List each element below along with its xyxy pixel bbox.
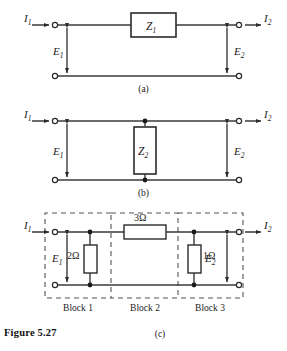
panel-c-terminal-bottom-right [236,282,241,287]
figure-number-label: Figure 5.27 [4,327,57,338]
panel-c-input-voltage-label: E1 [51,252,62,267]
panel-a-terminal-top-left [52,22,57,27]
panel-c-junction-1ohm-bottom [192,283,197,288]
panel-b-output-voltage-label: E2 [233,145,245,160]
panel-a-output-current-label: I2 [263,12,272,27]
panel-c-output-current-label: I2 [263,219,272,234]
panel-a-input-voltage-label: E1 [52,45,63,60]
panel-c-terminal-bottom-left [52,282,57,287]
panel-c-resistor-3ohm [124,225,166,239]
panel-b-junction-top [143,119,148,124]
panel-c-resistor-1ohm [188,245,201,273]
panel-b-terminal-top-right [236,118,241,123]
panel-c-3ohm-label: 3Ω [134,212,146,223]
panel-c-2ohm-label: 2Ω [67,250,79,261]
block-2-label: Block 2 [112,303,178,313]
panel-a-terminal-top-right [236,22,241,27]
panel-b-junction-bottom [143,178,148,183]
panel-b-output-current-label: I2 [263,108,272,123]
panel-a-terminal-bottom-left [52,73,57,78]
block-3-label: Block 3 [178,303,242,313]
panel-b-terminal-bottom-right [236,177,241,182]
figure-5-27: I1 I2 E1 E2 Z1 I1 I2 E1 [0,0,287,351]
panel-b-input-current-label: I1 [23,108,31,123]
panel-a-input-current-label: I1 [23,12,31,27]
panel-c-caption: (c) [60,329,260,339]
panel-c-terminal-top-left [52,229,57,234]
panel-c-input-current-label: I1 [23,219,31,234]
circuit-diagram-svg: I1 I2 E1 E2 Z1 I1 I2 E1 [0,0,287,351]
panel-a-output-voltage-label: E2 [233,45,245,60]
panel-b-terminal-bottom-left [52,177,57,182]
panel-b-input-voltage-label: E1 [52,145,63,160]
block-1-label: Block 1 [44,303,112,313]
panel-c-terminal-top-right [236,229,241,234]
panel-c-junction-2ohm-top [88,230,93,235]
panel-c-resistor-2ohm [84,245,97,273]
panel-a-terminal-bottom-right [236,73,241,78]
panel-c-junction-1ohm-top [192,230,197,235]
panel-b-terminal-top-left [52,118,57,123]
panel-b-caption: (b) [0,188,287,198]
panel-c-1ohm-label: 1Ω [203,250,215,261]
panel-c-junction-2ohm-bottom [88,283,93,288]
panel-a-caption: (a) [0,84,287,94]
